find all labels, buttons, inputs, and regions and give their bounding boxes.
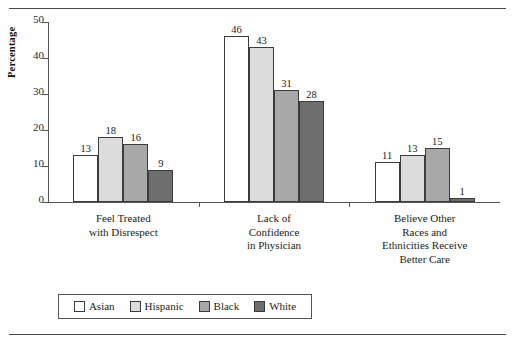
category-label: Believe Other Races and Ethnicities Rece… — [349, 212, 500, 266]
legend-label: White — [269, 301, 296, 312]
y-tick-label: 30 — [33, 86, 44, 97]
bar-value-label: 18 — [106, 125, 117, 136]
y-tick-label: 20 — [33, 122, 44, 133]
bar: 9 — [148, 170, 173, 202]
bar: 11 — [375, 162, 400, 202]
y-tick-label: 0 — [39, 194, 45, 205]
bar: 1 — [450, 198, 475, 202]
bar: 43 — [249, 47, 274, 202]
bar: 28 — [299, 101, 324, 202]
bar: 13 — [400, 155, 425, 202]
bar-value-label: 31 — [281, 78, 292, 89]
y-axis-line — [48, 22, 49, 202]
bar-value-label: 16 — [131, 132, 142, 143]
legend-label: Black — [214, 301, 240, 312]
top-rule — [9, 8, 506, 9]
bar-value-label: 11 — [382, 150, 392, 161]
x-axis-line — [48, 202, 500, 203]
bar: 31 — [274, 90, 299, 202]
bar-value-label: 9 — [158, 158, 163, 169]
plot-area: 01020304050 1318169464331281113151 — [48, 22, 500, 202]
bar-value-label: 1 — [460, 186, 465, 197]
legend-item[interactable]: White — [254, 301, 296, 312]
y-tick-label: 10 — [33, 158, 44, 169]
bottom-rule — [9, 334, 506, 335]
bar: 18 — [98, 137, 123, 202]
legend-label: Hispanic — [145, 301, 184, 312]
legend-swatch-icon — [130, 301, 141, 312]
y-axis-title: Percentage — [6, 27, 17, 78]
category-label: Lack of Confidence in Physician — [199, 212, 350, 253]
bar-value-label: 13 — [407, 143, 418, 154]
legend: AsianHispanicBlackWhite — [58, 294, 312, 319]
bar: 46 — [224, 36, 249, 202]
legend-item[interactable]: Asian — [74, 301, 115, 312]
legend-item[interactable]: Hispanic — [130, 301, 184, 312]
bar: 15 — [425, 148, 450, 202]
bar-value-label: 13 — [81, 143, 92, 154]
legend-item[interactable]: Black — [199, 301, 240, 312]
legend-label: Asian — [89, 301, 115, 312]
figure: Percentage 01020304050 13181694643312811… — [0, 0, 515, 341]
bar-value-label: 46 — [231, 24, 242, 35]
bar-value-label: 43 — [256, 35, 267, 46]
y-tick-label: 50 — [33, 14, 44, 25]
bar-value-label: 28 — [306, 89, 317, 100]
bar: 13 — [73, 155, 98, 202]
y-tick-label: 40 — [33, 50, 44, 61]
legend-swatch-icon — [74, 301, 85, 312]
legend-swatch-icon — [254, 301, 265, 312]
bar-value-label: 15 — [432, 136, 443, 147]
bar: 16 — [123, 144, 148, 202]
category-label: Feel Treated with Disrespect — [48, 212, 199, 239]
legend-swatch-icon — [199, 301, 210, 312]
group-separator-tick — [199, 202, 200, 207]
group-separator-tick — [349, 202, 350, 207]
